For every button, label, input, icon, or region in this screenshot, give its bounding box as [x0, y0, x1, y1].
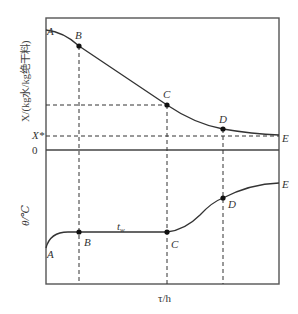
label-e-lower: E	[281, 178, 289, 190]
y-axis-label-temperature: θ/℃	[19, 205, 31, 226]
tick-x-star: X*	[31, 129, 45, 141]
point-d-lower	[220, 195, 225, 200]
temperature-curve	[46, 183, 279, 248]
point-b-lower	[76, 229, 81, 234]
drying-curve-diagram: A B C D E A B C D E tw X* 0 X/(kg水/kg绝干料…	[0, 0, 298, 314]
label-d-upper: D	[218, 113, 227, 125]
x-axis-label-time: τ/h	[158, 292, 171, 304]
plot-frame	[46, 18, 279, 284]
point-c-upper	[164, 102, 169, 107]
point-d-upper	[220, 126, 225, 131]
label-e-upper: E	[281, 132, 289, 144]
point-c-lower	[164, 229, 169, 234]
label-c-upper: C	[163, 88, 171, 100]
wet-bulb-temp-label: tw	[117, 220, 125, 234]
label-a-upper: A	[46, 25, 54, 37]
label-b-upper: B	[75, 29, 82, 41]
label-b-lower: B	[84, 236, 91, 248]
y-axis-label-moisture: X/(kg水/kg绝干料)	[19, 40, 32, 122]
label-c-lower: C	[171, 238, 179, 250]
tick-zero: 0	[32, 144, 38, 156]
point-b-upper	[76, 43, 81, 48]
label-d-lower: D	[227, 198, 236, 210]
label-a-lower: A	[46, 248, 54, 260]
